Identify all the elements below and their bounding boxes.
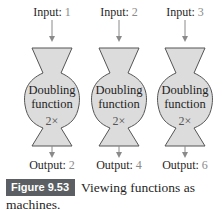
function-operation: 2× xyxy=(15,114,89,129)
function-operation: 2× xyxy=(148,114,222,129)
input-arrow-icon xyxy=(116,36,122,42)
output-label: Output: 4 xyxy=(82,158,156,173)
machine-2: Input: 2 Doublingfunction 2× Output: 4 xyxy=(82,0,156,175)
output-label: Output: 6 xyxy=(148,158,222,173)
function-name: Doublingfunction xyxy=(15,83,89,111)
machine-1: Input: 1 Doublingfunction 2× Output: 2 xyxy=(15,0,89,175)
function-name: Doublingfunction xyxy=(148,83,222,111)
figure-label-badge: Figure 9.53 xyxy=(6,179,75,196)
figure-caption: Figure 9.53Viewing functions as machines… xyxy=(6,179,221,210)
function-operation: 2× xyxy=(82,114,156,129)
input-arrow-icon xyxy=(49,36,55,42)
output-label: Output: 2 xyxy=(15,158,89,173)
machine-3: Input: 3 Doublingfunction 2× Output: 6 xyxy=(148,0,222,175)
input-arrow-icon xyxy=(182,36,188,42)
function-name: Doublingfunction xyxy=(82,83,156,111)
